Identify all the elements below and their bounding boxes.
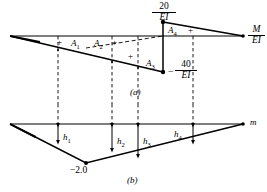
panel-b-min-value: −2.0 bbox=[70, 166, 87, 176]
area-label-A1: A1 bbox=[71, 39, 80, 50]
peak-bottom-value-fraction: 40 EI bbox=[175, 60, 197, 81]
ordinate-label-h3: h3 bbox=[143, 137, 151, 148]
area-sign-A2: + bbox=[112, 38, 117, 47]
peak-top-numerator: 20 bbox=[152, 2, 176, 12]
panel-a-axis-label: M EI bbox=[248, 25, 265, 46]
panel-a-right-end-node bbox=[241, 34, 245, 38]
panel-b-left-wedge bbox=[10, 123, 36, 138]
moment-diagram-figure: 20 EI − 40 EI M EI A1 A2 A3 A4 + + + + (… bbox=[0, 0, 267, 192]
panel-a-axis-denominator: EI bbox=[248, 35, 265, 46]
panel-b-m-diagram-line bbox=[10, 124, 243, 163]
ordinate-label-h4: h4 bbox=[174, 130, 182, 141]
area-sign-A4: + bbox=[188, 26, 193, 35]
area-label-A3: A3 bbox=[146, 59, 155, 70]
peak-bottom-numerator: 40 bbox=[175, 60, 197, 70]
area-label-A4: A4 bbox=[168, 26, 177, 37]
peak-top-denominator: EI bbox=[152, 12, 176, 23]
ordinate-label-h1: h1 bbox=[63, 133, 71, 144]
area-sign-A1: + bbox=[57, 38, 62, 47]
panel-b-right-end-node bbox=[241, 122, 245, 126]
area-label-A2: A2 bbox=[94, 39, 103, 50]
peak-top-value-fraction: 20 EI bbox=[152, 2, 176, 23]
panel-b-caption: (b) bbox=[127, 176, 138, 185]
ordinate-label-h2: h2 bbox=[117, 137, 125, 148]
peak-bottom-sign: − bbox=[168, 66, 174, 77]
panel-a-bottom-peak-node bbox=[161, 70, 165, 74]
peak-bottom-denominator: EI bbox=[175, 70, 197, 81]
panel-a-axis-numerator: M bbox=[248, 25, 265, 35]
panel-a-caption: (a) bbox=[130, 88, 141, 97]
panel-b-axis-label: m bbox=[250, 118, 257, 127]
area-sign-A3: + bbox=[128, 52, 133, 61]
